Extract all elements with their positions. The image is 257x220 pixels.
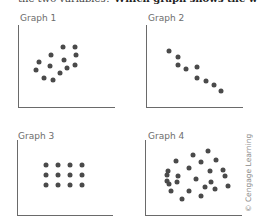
graph-4-data-point — [165, 173, 170, 178]
graph-2-data-point — [195, 65, 200, 70]
graph-1-data-point — [62, 58, 67, 63]
graph-4-data-point — [221, 168, 226, 173]
graph-2-data-point — [176, 55, 181, 60]
graph-4-y-axis — [145, 140, 146, 215]
graph-1-y-axis — [18, 25, 19, 107]
graph-2-data-point — [184, 67, 189, 72]
graph-2-data-point — [195, 76, 200, 81]
graph-4-data-point — [208, 169, 213, 174]
graph-1-data-point — [74, 53, 79, 58]
graph-3-y-axis — [17, 140, 18, 215]
graph-1-data-point — [37, 60, 42, 65]
graph-4-data-point — [226, 184, 231, 189]
graph-4-data-point — [187, 166, 192, 171]
graph-3-title: Graph 3 — [18, 131, 54, 141]
graph-3-data-point — [80, 163, 85, 168]
graph-1-x-axis — [18, 107, 115, 108]
graph-4-data-point — [169, 189, 174, 194]
graph-1-data-point — [34, 68, 39, 73]
graph-4-data-point — [199, 160, 204, 165]
graph-1-data-point — [42, 76, 47, 81]
graph-3-data-point — [56, 163, 61, 168]
graph-4-data-point — [199, 194, 204, 199]
question-emphasis: Which graph shows the weakest — [114, 0, 257, 4]
graph-4-data-point — [167, 182, 172, 187]
graph-3-data-point — [44, 163, 49, 168]
graph-4-data-point — [203, 185, 208, 190]
graph-4-data-point — [174, 159, 179, 164]
graph-3-data-point — [80, 173, 85, 178]
graph-4-data-point — [209, 180, 214, 185]
graph-2-data-point — [176, 63, 181, 68]
graph-3-data-point — [56, 173, 61, 178]
graph-2-data-point — [219, 89, 224, 94]
graph-3-data-point — [68, 163, 73, 168]
graph-1-data-point — [51, 78, 56, 83]
graph-2-data-point — [167, 49, 172, 54]
graph-1-data-point — [73, 63, 78, 68]
graph-2-data-point — [212, 83, 217, 88]
graph-4-data-point — [223, 174, 228, 179]
graph-3-data-point — [68, 173, 73, 178]
graph-4-data-point — [214, 158, 219, 163]
graph-2-x-axis — [146, 107, 243, 108]
graph-3-data-point — [44, 183, 49, 188]
graph-4-title: Graph 4 — [148, 131, 184, 141]
graph-4-x-axis — [145, 215, 242, 216]
graph-4-data-point — [175, 180, 180, 185]
graph-1-data-point — [65, 66, 70, 71]
graph-4-data-point — [176, 174, 181, 179]
graph-3-data-point — [68, 183, 73, 188]
graph-2-title: Graph 2 — [148, 13, 184, 23]
graph-1-data-point — [58, 71, 63, 76]
question-text: the two variables? Which graph shows the… — [18, 0, 257, 4]
graph-1-data-point — [48, 64, 53, 69]
graph-1-data-point — [61, 45, 66, 50]
graph-3-x-axis — [17, 215, 113, 216]
graph-1-data-point — [73, 45, 78, 50]
graph-1-title: Graph 1 — [20, 13, 56, 23]
copyright-credit: © Cengage Learning — [244, 134, 253, 212]
graph-4-data-point — [187, 189, 192, 194]
graph-2-data-point — [204, 79, 209, 84]
question-lead: the two variables? — [18, 0, 114, 4]
graph-4-data-point — [213, 187, 218, 192]
graph-4-data-point — [180, 197, 185, 202]
graph-3-data-point — [80, 183, 85, 188]
graph-4-data-point — [206, 149, 211, 154]
graph-2-y-axis — [146, 25, 147, 107]
graph-3-data-point — [44, 173, 49, 178]
graph-4-data-point — [191, 153, 196, 158]
graph-3-data-point — [56, 183, 61, 188]
graph-1-data-point — [49, 53, 54, 58]
graph-4-data-point — [194, 177, 199, 182]
